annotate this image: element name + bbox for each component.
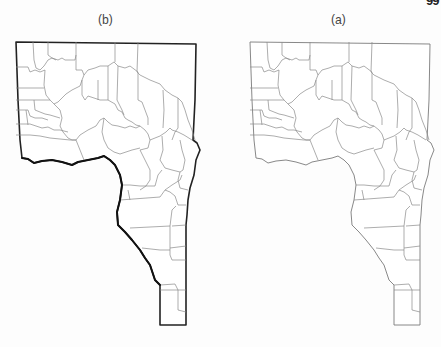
map-panel-b xyxy=(16,42,200,325)
map-panel-a xyxy=(250,42,434,325)
figure-maps xyxy=(0,0,441,347)
scanned-page: 66 (q) (ɐ) xyxy=(0,0,441,347)
